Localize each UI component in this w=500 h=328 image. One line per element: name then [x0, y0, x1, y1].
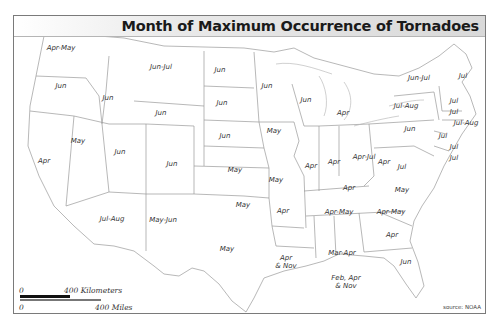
label-indiana: Apr	[328, 158, 340, 166]
label-maryland: Jul	[450, 154, 458, 162]
label-pennsylvania: Jun	[405, 125, 416, 133]
label-nebraska: Jun	[220, 132, 231, 140]
label-louisiana: Apr & Nov	[275, 254, 296, 270]
label-missouri: May	[269, 176, 283, 184]
scale-km-zero: 0	[19, 286, 24, 295]
label-south-dakota: Jun	[217, 99, 228, 107]
label-iowa: May	[267, 127, 281, 135]
label-idaho: Jun	[103, 94, 114, 102]
label-ohio: Apr-Jul	[353, 153, 376, 161]
source-credit: source: NOAA	[443, 304, 481, 310]
label-utah: Jun	[115, 148, 126, 156]
label-new-york: Jul-Aug	[394, 102, 419, 110]
label-north-dakota: Jun	[215, 66, 226, 74]
label-arizona: Jul-Aug	[100, 215, 125, 223]
label-florida: Jun	[401, 258, 412, 266]
label-wyoming: Jun	[156, 109, 167, 117]
label-west-virginia: Apr	[378, 158, 390, 166]
scale-mi-label: 400 Miles	[95, 303, 132, 312]
label-arkansas: Apr	[277, 207, 289, 215]
title-bar: Month of Maximum Occurrence of Tornadoes	[14, 16, 485, 37]
label-kansas: May	[228, 166, 242, 174]
label-kentucky: Apr	[343, 184, 355, 192]
map-title: Month of Maximum Occurrence of Tornadoes	[121, 16, 479, 36]
label-south-carolina: Apr-May	[377, 208, 406, 216]
label-vermont: Jun-Jul	[408, 74, 430, 82]
label-massachusetts: Jul	[450, 108, 458, 116]
label-oregon: Jun	[56, 82, 67, 90]
label-georgia: Apr	[386, 231, 398, 239]
label-illinois: Apr	[305, 162, 317, 170]
label-alabama: Mar-Apr	[328, 249, 355, 257]
label-north-carolina: May	[395, 186, 409, 194]
scale-bar-km	[20, 295, 70, 298]
label-virginia: Jul	[398, 163, 406, 171]
label-minnesota: Jun	[262, 82, 273, 90]
label-new-hampshire: Jul	[450, 97, 458, 105]
label-gulf-coast: Feb, Apr & Nov	[331, 274, 360, 290]
label-new-mexico: May-Jun	[149, 216, 177, 224]
label-wisconsin: Jun	[301, 96, 312, 104]
label-connecticut: Jul-Aug	[454, 119, 479, 127]
label-oklahoma: May	[236, 201, 250, 209]
label-maine: Jul	[459, 72, 467, 80]
label-texas: May	[220, 245, 234, 253]
label-nevada: May	[71, 137, 85, 145]
label-colorado: Jun	[167, 160, 178, 168]
label-california: Apr	[38, 157, 50, 165]
label-michigan: Apr	[337, 109, 349, 117]
scale-km-label: 400 Kilometers	[64, 286, 122, 295]
scale-bar-miles	[20, 299, 101, 301]
us-states-map	[14, 16, 486, 314]
map-frame: Month of Maximum Occurrence of Tornadoes…	[13, 15, 486, 314]
scale-mi-zero: 0	[19, 303, 24, 312]
label-new-jersey: Jul	[439, 132, 447, 140]
label-washington: Apr-May	[47, 44, 76, 52]
label-delaware: Jul	[450, 143, 458, 151]
label-tennessee: Apr-May	[325, 208, 354, 216]
label-montana: Jun-Jul	[150, 63, 172, 71]
